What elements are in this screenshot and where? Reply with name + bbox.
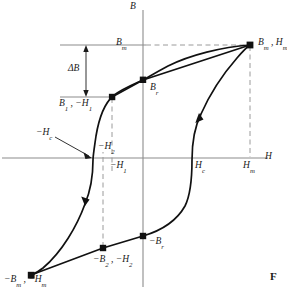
branch-direction-arrowheads	[81, 113, 203, 206]
h-axis-label: H	[265, 152, 272, 162]
hysteresis-loop-drawing	[0, 0, 287, 287]
minus-h1-label: −H1	[110, 161, 127, 171]
hysteresis-loop-figure: B H Bm ΔB B1 , −H1 Br Bm , Hm −Hc −H2 −H…	[0, 0, 287, 287]
b1-minus-h1-label: B1 , −H1	[59, 99, 92, 109]
minus-b2-minus-h2-label: −B2 , −H2	[93, 255, 132, 265]
minus-hc-leader	[55, 137, 92, 159]
delta-b-label: ΔB	[68, 64, 79, 74]
point-minus-b2-minus-h2	[100, 245, 106, 251]
minus-br-label: −Br	[149, 237, 164, 247]
minus-bm-minus-hm-label: −Bm , −Hm	[4, 275, 46, 285]
hc-label: Hc	[195, 161, 205, 171]
br-label: Br	[150, 83, 158, 93]
delta-b-dimension-arrow	[83, 45, 88, 97]
hm-label: Hm	[243, 161, 255, 171]
bm-level-label: Bm	[116, 38, 127, 48]
delta-b-arrowhead-up	[83, 45, 88, 52]
minus-hc-label: −Hc	[36, 128, 52, 138]
marked-points-group	[28, 42, 254, 279]
ascending-branch-curve	[143, 45, 250, 236]
point-bm-hm	[247, 42, 254, 49]
b-axis-label: B	[130, 2, 136, 12]
bm-hm-label: Bm , Hm	[258, 38, 287, 48]
point-b1-minus-h1	[109, 94, 115, 100]
delta-b-arrowhead-down	[83, 90, 88, 97]
point-br	[140, 77, 146, 83]
descending-branch-arrow	[81, 197, 89, 207]
minus-h2-label: −H2	[98, 142, 115, 152]
upper-minor-chord-curve	[112, 45, 250, 97]
figure-tag: F	[270, 270, 277, 282]
point-minus-br	[140, 233, 146, 239]
ascending-branch-arrow	[195, 113, 203, 123]
